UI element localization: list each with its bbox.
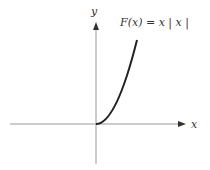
y-axis-label: y bbox=[90, 5, 98, 18]
function-plot: x y F(x) = x | x | bbox=[0, 0, 210, 170]
x-axis-label: x bbox=[191, 118, 198, 131]
y-axis-arrow-icon bbox=[93, 22, 99, 30]
x-axis-arrow-icon bbox=[178, 121, 186, 127]
function-label: F(x) = x | x | bbox=[119, 16, 189, 30]
function-curve bbox=[96, 40, 137, 124]
